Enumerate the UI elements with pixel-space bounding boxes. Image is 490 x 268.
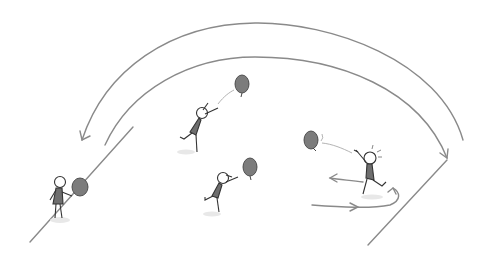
upper-middle-player-figure: [180, 103, 218, 152]
shadow-lower: [203, 212, 221, 217]
lower-middle-player-figure: [205, 173, 238, 213]
balloon-right-icon: [304, 131, 318, 149]
movement-loop-arrow: [312, 188, 399, 207]
balloon-game-illustration: [0, 0, 490, 268]
balloon-lower-icon: [243, 158, 257, 176]
outer-arc-arrow: [82, 23, 463, 140]
inner-arc-arrow: [105, 57, 447, 158]
shadow-upper: [177, 150, 195, 155]
right-boundary-line: [368, 160, 447, 245]
shadow-right: [361, 195, 383, 200]
left-player-figure: [50, 177, 72, 219]
shadow-left: [50, 217, 70, 223]
balloon-upper-icon: [235, 75, 249, 93]
balloon-left-icon: [72, 178, 88, 196]
